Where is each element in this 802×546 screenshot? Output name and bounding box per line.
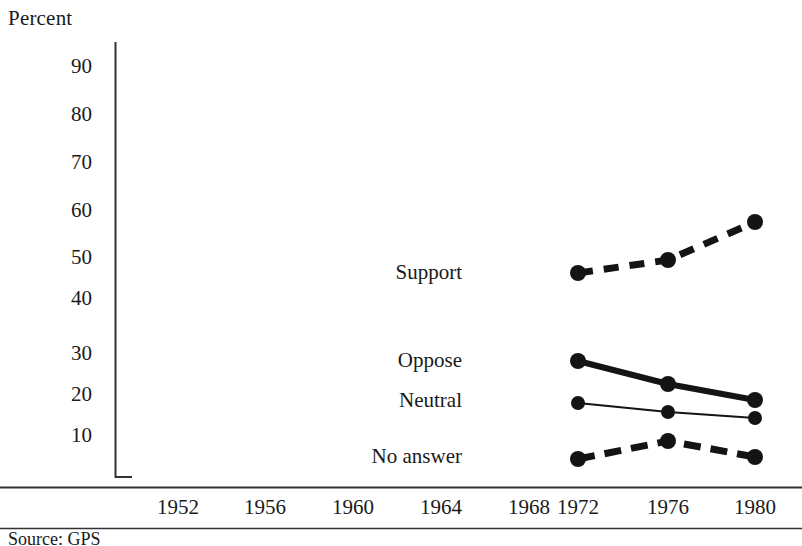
- neutral-point-1976: [661, 405, 675, 419]
- series-support: [570, 214, 763, 281]
- x-tick-1952: 1952: [140, 497, 216, 518]
- series-oppose: [570, 353, 763, 408]
- oppose-point-1980: [747, 392, 763, 408]
- series-no-answer: [570, 433, 763, 467]
- neutral-point-1972: [571, 396, 585, 410]
- no-answer-point-1980: [747, 449, 763, 465]
- plot-area: [0, 0, 802, 546]
- x-tick-1972: 1972: [540, 497, 616, 518]
- no-answer-point-1972: [570, 451, 586, 467]
- source-note: Source: GPS: [8, 530, 101, 546]
- series-neutral: [571, 396, 762, 425]
- chart-figure: Percent 90 80 70 60 50 40 30 20 10 Suppo…: [0, 0, 802, 546]
- support-point-1976: [660, 252, 676, 268]
- neutral-point-1980: [748, 411, 762, 425]
- oppose-point-1976: [660, 376, 676, 392]
- x-tick-1976: 1976: [630, 497, 706, 518]
- x-tick-1960: 1960: [315, 497, 391, 518]
- x-tick-1956: 1956: [227, 497, 303, 518]
- no-answer-point-1976: [660, 433, 676, 449]
- x-tick-1980: 1980: [717, 497, 793, 518]
- x-tick-1964: 1964: [403, 497, 479, 518]
- oppose-point-1972: [570, 353, 586, 369]
- support-point-1980: [747, 214, 763, 230]
- support-point-1972: [570, 265, 586, 281]
